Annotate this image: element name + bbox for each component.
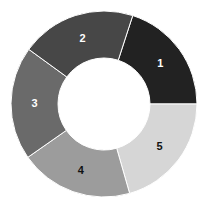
slice-label-4: 4 — [78, 164, 85, 176]
slice-label-2: 2 — [79, 32, 85, 44]
slice-label-3: 3 — [31, 97, 37, 109]
slice-label-5: 5 — [156, 140, 162, 152]
slice-label-1: 1 — [157, 57, 163, 69]
donut-chart: 15432 — [0, 0, 208, 205]
